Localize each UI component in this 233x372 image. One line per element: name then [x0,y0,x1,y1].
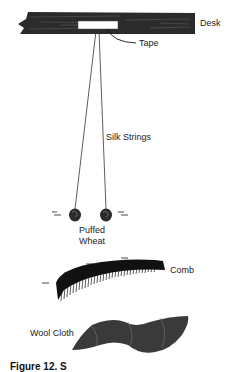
tape-label: Tape [139,38,159,49]
puffed-wheat-right-icon [100,209,112,222]
silk-string-left [75,31,96,209]
desk-label: Desk [200,18,221,29]
wool-cloth-icon [72,316,188,353]
silk-string-right [99,31,106,209]
negative-charge-marks-balls [52,212,128,215]
silk-strings-label: Silk Strings [106,132,151,143]
figure-caption: Figure 12. S [10,361,67,372]
puffed-wheat-label: Puffed Wheat [72,225,112,247]
tape-icon [78,21,118,29]
puffed-wheat-left-icon [69,209,81,222]
puffed-wheat-label-line2: Wheat [72,236,112,247]
comb-icon [56,260,165,302]
comb-label: Comb [170,265,194,276]
wool-cloth-label: Wool Cloth [30,328,74,339]
puffed-wheat-label-line1: Puffed [72,225,112,236]
